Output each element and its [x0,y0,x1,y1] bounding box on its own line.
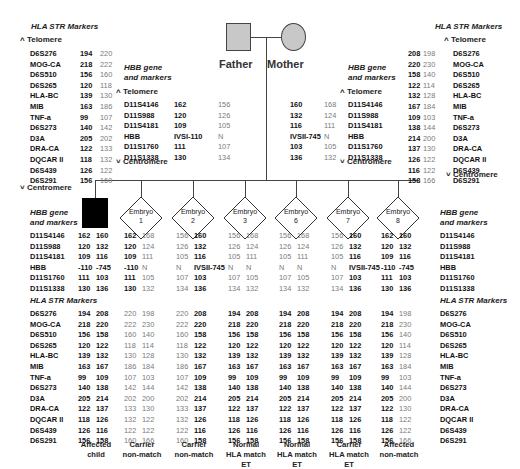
allele-row: 122130 [381,404,421,415]
marker-row: D6S291 [440,436,473,447]
telomere-mother-hbb: ˄ Telomere [340,87,382,96]
father-label: Father [219,58,253,70]
allele-value: 163 [279,362,297,373]
allele-row: 205214 [78,394,118,405]
allele-value: 136 [96,284,126,295]
marker-name: TNF-a [440,373,461,384]
hla-title-top-right: HLA STR Markers [435,22,502,31]
allele-value: -110 [381,263,399,274]
allele-value: 202 [100,134,122,145]
allele-value: IVSII-745 [194,263,224,274]
marker-name: D11S4181 [348,121,383,132]
marker-name: DRA-CA [453,144,482,155]
marker-name: D6S439 [30,426,57,437]
marker-row: D11S988 [30,242,65,253]
embryo-label: Embryo [119,207,163,216]
marker-name: HLA-BC [440,351,468,362]
allele-row: 163167 [279,362,319,373]
allele-value: 109 [297,373,319,384]
allele-row: 139128 [381,351,421,362]
marker-row: MOG-CA [30,320,63,331]
marker-name: D3A [30,394,45,405]
allele-value: 99 [228,373,246,384]
hla-title-bottom-left: HLA STR Markers [30,296,97,305]
centromere-top-right: ˅ Centromere [446,170,498,179]
embryo-7-hla-alleles: 1942082182201561581201221391321631679910… [331,309,371,447]
allele-row: D3A205202 [30,134,122,145]
allele-value: 126 [297,415,319,426]
allele-value: 218 [80,60,100,71]
allele-value: 122 [423,166,445,177]
allele-row: 118126 [331,415,371,426]
allele-row: D11S4181109105 [124,121,244,132]
allele-value: 160 [124,330,142,341]
marker-row: D6S273 [440,383,473,394]
allele-value: 230 [142,320,164,331]
allele-value: 138 [194,383,216,394]
marker-name: D11S988 [124,111,174,122]
allele-value: 200 [399,394,421,405]
allele-value: N [246,263,276,274]
allele-value: 126 [331,242,349,253]
allele-value: N [228,263,246,274]
embryo-6-hla-alleles: 1942082182201561581201221391321631679910… [279,309,319,447]
allele-row: 194208 [331,309,371,320]
allele-row: 118122 [381,415,421,426]
allele-value: 163 [78,362,96,373]
father-hbb-table: D11S4146162156D11S988120126D11S418110910… [124,100,244,164]
centromere-arrow-icon: ˅ [340,157,345,166]
allele-value: 122 [80,144,100,155]
allele-row: 105116 [176,252,224,263]
telomere-arrow-icon: ˄ [444,35,449,44]
allele-row: 194208 [279,309,319,320]
allele-value: 156 [279,231,297,242]
allele-value: 126 [228,426,246,437]
marker-name: D6S276 [440,309,467,320]
allele-value: 109 [124,252,142,263]
allele-value: 156 [381,330,399,341]
allele-value: 218 [381,320,399,331]
allele-value: 109 [78,252,96,263]
allele-value: 111 [78,273,96,284]
allele-value: 162 [381,231,399,242]
embryo-number: 1 [119,216,163,225]
allele-value: 107 [331,273,349,284]
allele-value: 120 [279,341,297,352]
marker-row: D11S988 [348,111,383,122]
allele-value: 122 [399,426,421,437]
marker-row: D11S1760 [440,273,475,284]
allele-value: 122 [78,404,96,415]
allele-value: 167 [246,362,268,373]
allele-value: IVSII-745 [290,132,324,143]
allele-row: 132122 [124,415,164,426]
allele-value: 116 [96,426,118,437]
allele-value: 218 [331,320,349,331]
marker-row: TNF-a [440,373,473,384]
allele-value: 139 [80,91,100,102]
allele-value: 126 [80,166,100,177]
allele-value: 130 [399,404,421,415]
allele-value: 156 [228,330,246,341]
marker-row: HLA-BC [30,351,63,362]
allele-value: 132 [408,91,423,102]
marker-name: D11S988 [440,242,470,253]
allele-row: 122122 [124,426,164,437]
allele-row: 130136 [381,284,429,295]
marker-row: DRA-CA [453,144,486,155]
allele-value: 167 [194,362,216,373]
marker-row: D3A [440,394,473,405]
caption-line: HLA match [268,450,326,460]
allele-row: D11S4146162156 [124,100,244,111]
allele-row: HBBIVSI-110N [124,132,244,143]
allele-row: 139132 [78,351,118,362]
allele-row: 133130 [124,404,164,415]
allele-value: 144 [142,383,164,394]
allele-row: NN [228,263,276,274]
embryo-3-caption: NormalHLA matchET [217,440,275,469]
allele-row: 140144 [381,383,421,394]
embryo-number: 6 [274,216,318,225]
caption-line: Carrier [165,440,223,450]
allele-value: 126 [349,415,371,426]
allele-value: 109 [349,373,371,384]
allele-value: 120 [381,341,399,352]
